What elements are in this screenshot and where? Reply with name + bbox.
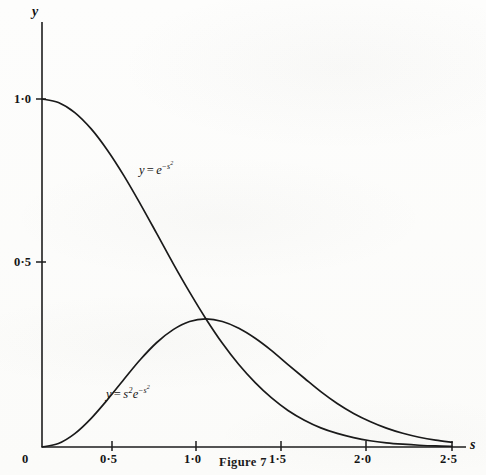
- curve-label-gaussian: y=e−s2: [139, 163, 174, 178]
- figure-caption: Figure 7: [0, 455, 486, 470]
- gaussian-lhs: y: [139, 163, 145, 177]
- s2-exponent: −s2: [139, 386, 151, 395]
- y-tick-label-0-5: 0·5: [14, 255, 31, 270]
- x-axis-label: s: [470, 437, 475, 453]
- curve-label-s2-gaussian: y=s2e−s2: [106, 387, 150, 402]
- gaussian-equals: =: [145, 163, 156, 177]
- plot-canvas: [0, 0, 486, 475]
- curve-s2-gaussian: [42, 319, 452, 447]
- figure-container: 1·0 0·5 0 0·5 1·0 1·5 2·0 2·5 y s y=e−s2…: [0, 0, 486, 475]
- y-axis-label: y: [32, 4, 38, 20]
- gaussian-exponent: −s2: [162, 162, 174, 171]
- y-tick-label-1-0: 1·0: [14, 92, 31, 107]
- s2-equals: =: [112, 387, 123, 401]
- s2-exponent-power: 2: [147, 384, 150, 390]
- gaussian-exponent-power: 2: [170, 160, 173, 166]
- s2-lhs: y: [106, 387, 112, 401]
- curve-gaussian: [42, 99, 452, 446]
